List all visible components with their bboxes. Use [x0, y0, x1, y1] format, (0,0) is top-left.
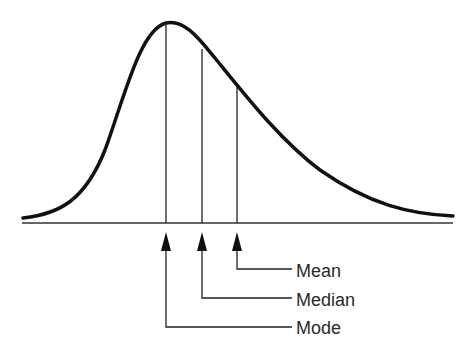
mode-leader-line — [166, 250, 292, 327]
mode-label: Mode — [296, 318, 341, 338]
mode-pointer — [161, 232, 292, 327]
mean-arrow-icon — [232, 232, 242, 251]
median-label: Median — [296, 290, 355, 310]
skewed-distribution-diagram: Mean Median Mode — [0, 0, 471, 357]
mean-pointer — [232, 232, 292, 269]
median-pointer — [197, 232, 292, 298]
mean-label: Mean — [296, 261, 341, 281]
mean-leader-line — [237, 250, 292, 269]
distribution-curve — [23, 23, 453, 218]
median-leader-line — [202, 250, 292, 298]
mode-arrow-icon — [161, 232, 171, 251]
median-arrow-icon — [197, 232, 207, 251]
